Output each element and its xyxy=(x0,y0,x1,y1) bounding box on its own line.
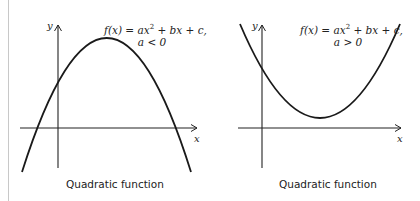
formula-right-condition: a > 0 xyxy=(334,36,362,48)
x-axis-label-right: x xyxy=(397,133,403,144)
formula-right-prefix: f(x) = ax xyxy=(300,24,346,36)
y-axis-label-left: y xyxy=(47,20,53,31)
formula-left-prefix: f(x) = ax xyxy=(104,24,150,36)
formula-right: f(x) = ax2 + bx + c, a > 0 xyxy=(300,21,396,48)
formula-left: f(x) = ax2 + bx + c, a < 0 xyxy=(104,21,200,48)
y-axis-label-right: y xyxy=(252,20,258,31)
parabola-concave-down xyxy=(22,38,191,172)
caption-left: Quadratic function xyxy=(66,178,164,190)
formula-right-suffix: + bx + c, xyxy=(350,24,403,36)
caption-right: Quadratic function xyxy=(279,178,377,190)
formula-left-suffix: + bx + c, xyxy=(154,24,207,36)
formula-left-condition: a < 0 xyxy=(138,36,166,48)
x-axis-label-left: x xyxy=(194,133,200,144)
